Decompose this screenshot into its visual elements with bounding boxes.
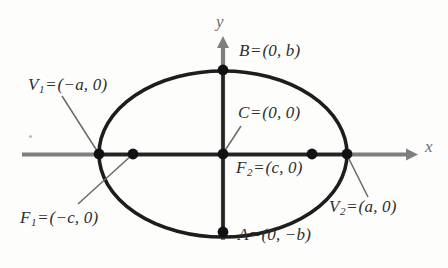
y-axis-arrowhead [217,36,229,48]
point-label-b-coords: (0, b) [262,41,300,60]
point-label-f2: F2=(c, 0) [236,159,303,178]
x-axis-label: x [425,137,433,157]
point-label-f1: F1=(−c, 0) [20,209,98,228]
y-axis-label: y [216,12,224,32]
point-label-v1: V1=(−a, 0) [28,76,107,95]
x-axis-arrowhead [406,149,418,161]
point-label-a-equals: = [249,225,262,244]
point-dot-c [218,149,229,160]
point-label-c: C=(0, 0) [238,104,300,121]
point-dot-b [218,65,229,76]
point-label-f1-equals: = [37,208,50,227]
point-label-a: A=(0, −b) [238,226,311,243]
point-label-a-symbol: A [238,225,249,244]
point-label-f1-symbol: F [20,208,31,227]
point-dot-a [218,227,229,238]
point-label-c-equals: = [250,103,263,122]
point-label-v2-coords: (a, 0) [359,197,397,216]
point-label-b-symbol: B [239,41,250,60]
point-label-a-coords: (0, −b) [261,225,311,244]
point-label-c-symbol: C [238,103,250,122]
point-label-v2-symbol: V [329,197,340,216]
point-label-b: B=(0, b) [239,42,300,59]
point-label-b-equals: = [250,41,263,60]
c-leader-line [224,126,241,152]
point-label-v1-coords: (−a, 0) [58,75,108,94]
point-label-f1-subscript: 1 [31,216,37,228]
point-label-f2-subscript: 2 [247,166,253,178]
point-label-f1-coords: (−c, 0) [50,208,99,227]
point-label-f2-coords: (c, 0) [266,158,303,177]
scan-speck [29,135,32,138]
point-dot-f2 [307,149,318,160]
point-label-c-coords: (0, 0) [262,103,300,122]
f1-leader-line [78,154,133,204]
point-label-v1-symbol: V [28,75,39,94]
v1-leader-line [62,96,99,154]
point-label-f2-symbol: F [236,158,247,177]
point-label-v1-subscript: 1 [39,83,45,95]
point-label-v1-equals: = [45,75,58,94]
point-dot-v1 [94,149,105,160]
ellipse-figure: y x V1=(−a, 0) F1=(−c, 0) C=(0, 0) F2=(c… [0,0,448,268]
point-label-f2-equals: = [253,158,266,177]
point-dot-f1 [128,149,139,160]
point-label-v2-equals: = [346,197,359,216]
v2-leader-line [347,155,368,197]
point-label-v2: V2=(a, 0) [329,198,397,217]
point-dot-v2 [342,149,353,160]
point-label-v2-subscript: 2 [340,205,346,217]
